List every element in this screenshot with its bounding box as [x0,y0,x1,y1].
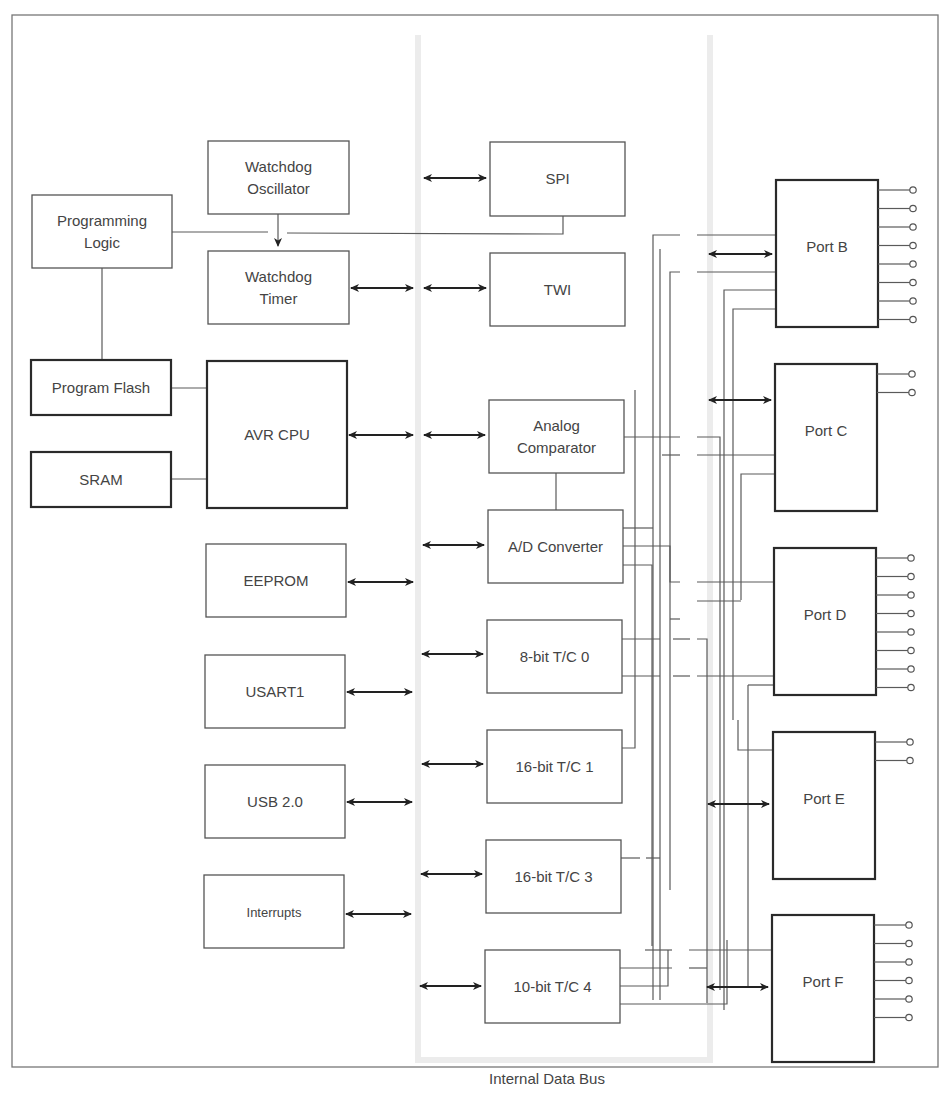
pin-icon [908,666,914,672]
block-tc4: 10-bit T/C 4 [485,950,620,1023]
block-label: 8-bit T/C 0 [520,648,590,665]
pin-icon [906,1014,912,1020]
block-label: USB 2.0 [247,793,303,810]
block-twi: TWI [490,253,625,326]
block-label: Oscillator [247,180,310,197]
pin-icon [906,977,912,983]
pin-icon [906,922,912,928]
pin-icon [910,316,916,322]
port-b: Port B [776,180,916,327]
port-label: Port E [803,790,845,807]
pin-icon [910,261,916,267]
pin-icon [908,629,914,635]
diagram-frame [12,15,938,1067]
port-e: Port E [773,732,913,879]
block-usb: USB 2.0 [205,765,345,838]
port-label: Port F [803,973,844,990]
block-tc0: 8-bit T/C 0 [487,620,622,693]
block-label: Comparator [517,439,596,456]
block-label: Watchdog [245,268,312,285]
pin-icon [908,647,914,653]
pin-icon [908,573,914,579]
port-c: Port C [775,364,915,511]
pin-icon [910,298,916,304]
pin-icon [907,739,913,745]
block-label: EEPROM [243,572,308,589]
pin-icon [909,371,915,377]
connection-wires [102,214,776,1010]
functional-blocks: WatchdogOscillatorProgrammingLogicWatchd… [31,141,625,1023]
block-label: Timer [260,290,298,307]
block-avr-cpu: AVR CPU [207,361,347,508]
block-label: TWI [544,281,572,298]
pin-icon [909,389,915,395]
block-eeprom: EEPROM [206,544,346,617]
pin-icon [908,684,914,690]
block-label: 10-bit T/C 4 [513,978,591,995]
pin-icon [906,996,912,1002]
block-watchdog-oscillator: WatchdogOscillator [208,141,349,214]
pin-icon [908,610,914,616]
block-ad-converter: A/D Converter [488,510,623,583]
pin-icon [910,279,916,285]
block-tc1: 16-bit T/C 1 [487,730,622,803]
block-label: SPI [545,170,569,187]
block-label: 16-bit T/C 3 [514,868,592,885]
block-interrupts: Interrupts [204,875,344,948]
port-label: Port D [804,606,847,623]
internal-data-bus-label: Internal Data Bus [489,1070,605,1087]
port-d: Port D [774,548,914,695]
block-label: USART1 [246,683,305,700]
block-label: Programming [57,212,147,229]
pin-icon [910,187,916,193]
block-label: Watchdog [245,158,312,175]
block-watchdog-timer: WatchdogTimer [208,251,349,324]
block-program-flash: Program Flash [31,360,171,415]
avr-block-diagram: Internal Data Bus [0,0,952,1111]
block-label: AVR CPU [244,426,310,443]
block-usart1: USART1 [205,655,345,728]
pin-icon [908,555,914,561]
pin-icon [907,757,913,763]
pin-icon [906,940,912,946]
block-label: A/D Converter [508,538,603,555]
pin-icon [908,592,914,598]
block-label: 16-bit T/C 1 [515,758,593,775]
block-spi: SPI [490,142,625,216]
block-programming-logic: ProgrammingLogic [32,195,172,268]
port-label: Port C [805,422,848,439]
port-label: Port B [806,238,848,255]
block-label: Logic [84,234,120,251]
pin-icon [906,959,912,965]
pin-icon [910,224,916,230]
pin-icon [910,205,916,211]
io-ports: Port BPort CPort DPort EPort F [772,180,916,1062]
block-label: SRAM [79,471,122,488]
block-tc3: 16-bit T/C 3 [486,840,621,913]
block-label: Analog [533,417,580,434]
block-label: Interrupts [247,905,302,920]
block-analog-comparator: AnalogComparator [489,400,624,473]
pin-icon [910,242,916,248]
port-f: Port F [772,915,912,1062]
block-label: Program Flash [52,379,150,396]
block-sram: SRAM [31,452,171,507]
